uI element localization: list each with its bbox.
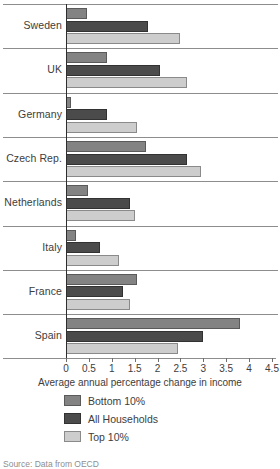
bar bbox=[66, 77, 187, 88]
x-axis-tick-label: 3 bbox=[201, 363, 207, 374]
x-axis-tick-label: 0 bbox=[63, 363, 69, 374]
bar bbox=[66, 52, 107, 63]
chart-legend: Bottom 10%All HouseholdsTop 10% bbox=[64, 392, 264, 446]
legend-swatch bbox=[64, 395, 81, 406]
bar bbox=[66, 274, 137, 285]
bar bbox=[66, 299, 130, 310]
bar-group: Germany bbox=[0, 93, 280, 137]
group-bars bbox=[0, 48, 280, 92]
bar bbox=[66, 286, 123, 297]
group-bars bbox=[0, 226, 280, 270]
group-bars bbox=[0, 137, 280, 181]
x-axis-tick-label: 0.5 bbox=[82, 363, 96, 374]
group-bars bbox=[0, 270, 280, 314]
group-bars bbox=[0, 314, 280, 358]
x-axis-tick-labels: 00.511.522.533.544.5 bbox=[0, 363, 280, 377]
bar bbox=[66, 198, 130, 209]
x-axis-tick bbox=[249, 358, 250, 362]
bar-group: Spain bbox=[0, 314, 280, 358]
bar bbox=[66, 343, 178, 354]
bar bbox=[66, 109, 107, 120]
bar bbox=[66, 318, 240, 329]
bar-group: Netherlands bbox=[0, 181, 280, 225]
bar bbox=[66, 230, 76, 241]
x-axis-tick bbox=[112, 358, 113, 362]
bar bbox=[66, 154, 187, 165]
group-bars bbox=[0, 181, 280, 225]
bar-group: UK bbox=[0, 48, 280, 92]
bar-group: Italy bbox=[0, 226, 280, 270]
bar bbox=[66, 122, 137, 133]
legend-swatch bbox=[64, 431, 81, 442]
x-axis-tick bbox=[89, 358, 90, 362]
bar bbox=[66, 185, 88, 196]
legend-label: All Households bbox=[88, 413, 158, 425]
bar bbox=[66, 141, 146, 152]
x-axis-tick-label: 1 bbox=[109, 363, 115, 374]
bar bbox=[66, 33, 180, 44]
bar bbox=[66, 65, 160, 76]
x-axis-tick-label: 2.5 bbox=[173, 363, 187, 374]
x-axis-tick bbox=[203, 358, 204, 362]
bar-group: Czech Rep. bbox=[0, 137, 280, 181]
bar bbox=[66, 8, 87, 19]
bar bbox=[66, 331, 203, 342]
bar-group: France bbox=[0, 270, 280, 314]
x-axis-tick bbox=[226, 358, 227, 362]
x-axis-tick bbox=[66, 358, 67, 362]
x-axis-tick-label: 4.5 bbox=[265, 363, 279, 374]
chart-source: Source: Data from OECD bbox=[3, 459, 99, 469]
x-axis-tick bbox=[158, 358, 159, 362]
x-axis-tick-label: 2 bbox=[155, 363, 161, 374]
legend-swatch bbox=[64, 413, 81, 424]
bar bbox=[66, 242, 100, 253]
plot-area: SwedenUKGermanyCzech Rep.NetherlandsItal… bbox=[0, 0, 280, 362]
legend-item: Bottom 10% bbox=[64, 392, 264, 409]
bar-group: Sweden bbox=[0, 4, 280, 48]
legend-item: All Households bbox=[64, 410, 264, 427]
x-axis-tick bbox=[135, 358, 136, 362]
bar bbox=[66, 255, 119, 266]
bar bbox=[66, 21, 148, 32]
x-axis-title: Average annual percentage change in inco… bbox=[0, 377, 280, 388]
legend-item: Top 10% bbox=[64, 428, 264, 445]
x-axis-tick bbox=[272, 358, 273, 362]
x-axis-tick-label: 3.5 bbox=[219, 363, 233, 374]
bar bbox=[66, 166, 201, 177]
x-axis-tick-label: 1.5 bbox=[128, 363, 142, 374]
group-bars bbox=[0, 4, 280, 48]
income-change-bar-chart: SwedenUKGermanyCzech Rep.NetherlandsItal… bbox=[0, 0, 280, 469]
x-axis-tick-label: 4 bbox=[246, 363, 252, 374]
legend-label: Bottom 10% bbox=[88, 395, 145, 407]
x-axis-tick bbox=[180, 358, 181, 362]
group-bars bbox=[0, 93, 280, 137]
y-axis-line bbox=[66, 4, 67, 359]
legend-label: Top 10% bbox=[88, 431, 129, 443]
bar bbox=[66, 210, 135, 221]
